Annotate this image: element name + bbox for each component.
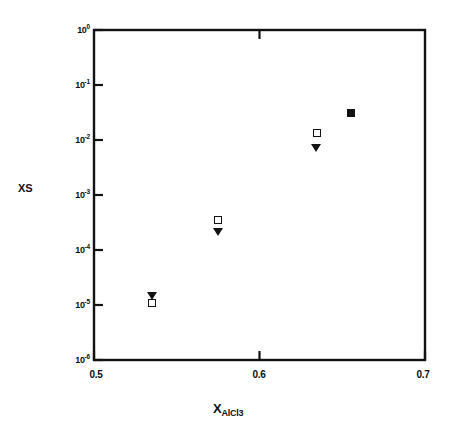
data-point-open-square-1 bbox=[214, 216, 222, 224]
y-tick-label-2: 10-2 bbox=[56, 135, 90, 145]
x-tick-label-1: 0.6 bbox=[252, 369, 265, 380]
scatter-chart-figure: 100 10-1 10-2 10-3 10-4 10-5 10-6 0.5 0.… bbox=[0, 0, 456, 442]
data-point-filled-square-0 bbox=[347, 109, 355, 117]
y-axis-ticks bbox=[94, 30, 103, 360]
data-point-open-square-0 bbox=[148, 299, 156, 307]
data-point-filled-triangle-1 bbox=[213, 228, 223, 236]
x-tick-label-0: 0.5 bbox=[89, 369, 102, 380]
plot-frame bbox=[0, 0, 456, 442]
y-tick-label-1: 10-1 bbox=[56, 80, 90, 90]
x-axis-title: XAlCl3 bbox=[213, 401, 243, 416]
data-point-open-square-2 bbox=[313, 129, 321, 137]
y-tick-label-5: 10-5 bbox=[56, 300, 90, 310]
data-point-filled-triangle-0 bbox=[147, 292, 157, 300]
y-tick-label-4: 10-4 bbox=[56, 245, 90, 255]
y-tick-label-0: 100 bbox=[56, 25, 90, 35]
y-tick-label-3: 10-3 bbox=[56, 190, 90, 200]
y-axis-title: XS bbox=[18, 182, 32, 194]
y-tick-label-6: 10-6 bbox=[56, 355, 90, 365]
plot-area-border bbox=[94, 30, 425, 360]
x-axis-ticks bbox=[94, 30, 425, 360]
data-point-filled-triangle-2 bbox=[311, 144, 321, 152]
x-tick-label-2: 0.7 bbox=[416, 369, 429, 380]
